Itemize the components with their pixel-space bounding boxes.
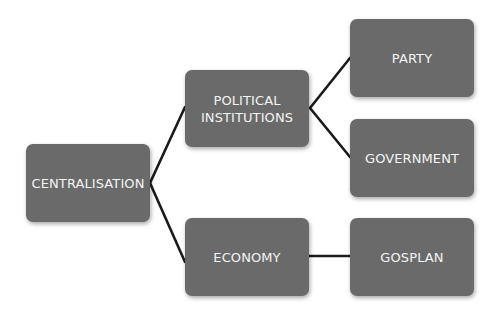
node-label: GOVERNMENT: [365, 150, 459, 167]
node-label: ECONOMY: [213, 249, 280, 266]
edge-centralisation-political: [150, 107, 185, 183]
node-economy: ECONOMY: [185, 218, 309, 296]
edge-political-government: [310, 108, 350, 157]
node-centralisation: CENTRALISATION: [26, 144, 150, 222]
node-government: GOVERNMENT: [350, 119, 474, 197]
node-label-line2: INSTITUTIONS: [201, 109, 293, 126]
node-label: GOSPLAN: [380, 249, 443, 266]
node-label: PARTY: [392, 50, 432, 67]
edge-centralisation-economy: [150, 183, 185, 262]
node-political-institutions: POLITICAL INSTITUTIONS: [185, 70, 309, 147]
node-label: CENTRALISATION: [32, 175, 145, 192]
edge-political-party: [310, 58, 350, 108]
node-party: PARTY: [350, 19, 474, 97]
node-gosplan: GOSPLAN: [350, 218, 474, 296]
diagram-canvas: CENTRALISATION POLITICAL INSTITUTIONS PA…: [0, 0, 502, 315]
node-label-line1: POLITICAL: [201, 92, 293, 109]
